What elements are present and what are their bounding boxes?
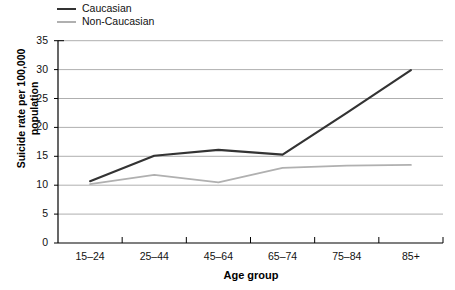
gridlines (58, 41, 443, 214)
x-tick-label: 15–24 (58, 250, 122, 262)
y-tick-label: 5 (22, 207, 48, 219)
chart-figure: Caucasian Non-Caucasian 05101520253035 1… (0, 0, 455, 290)
y-axis-title: Suicide rate per 100,000 population (15, 21, 40, 196)
x-tick-marks (122, 237, 443, 243)
chart-canvas (0, 0, 455, 290)
x-tick-label: 65–74 (251, 250, 315, 262)
x-tick-label: 85+ (379, 250, 443, 262)
y-tick-label: 0 (22, 236, 48, 248)
series-line-non-caucasian (90, 165, 411, 184)
x-tick-label: 45–64 (186, 250, 250, 262)
x-tick-label: 25–44 (122, 250, 186, 262)
axis-lines (58, 41, 443, 243)
plot-area: 05101520253035 15–2425–4445–6465–7475–84… (0, 0, 455, 290)
x-tick-label: 75–84 (315, 250, 379, 262)
x-axis-title: Age group (58, 269, 444, 281)
